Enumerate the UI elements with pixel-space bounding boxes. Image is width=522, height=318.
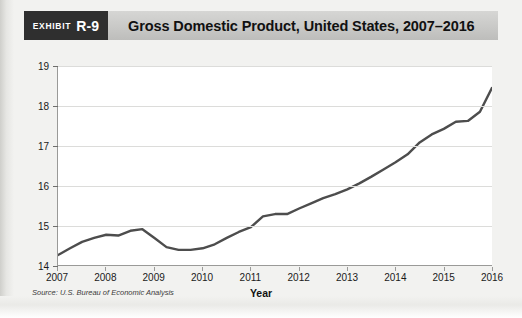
y-tick-mark-15 <box>53 226 58 227</box>
exhibit-tag-word: Exhibit <box>33 21 71 31</box>
x-tick-mark-2014 <box>395 267 396 271</box>
x-tick-mark-2008 <box>105 267 106 271</box>
x-tick-mark-2009 <box>154 267 155 271</box>
x-tick-label-2008: 2008 <box>94 272 116 283</box>
x-tick-label-2014: 2014 <box>384 272 406 283</box>
exhibit-title: Gross Domestic Product, United States, 2… <box>108 11 498 40</box>
chart-container: Trillions of Dollars 141516171819 200720… <box>24 47 498 292</box>
gridline-y-16 <box>58 186 492 187</box>
y-tick-mark-16 <box>53 186 58 187</box>
x-tick-label-2011: 2011 <box>240 272 262 283</box>
y-tick-mark-19 <box>53 66 58 67</box>
page-edge-shadow-left <box>0 0 14 318</box>
page-edge-shadow-bottom <box>0 296 522 318</box>
y-tick-label-18: 18 <box>27 101 49 112</box>
y-tick-mark-18 <box>53 106 58 107</box>
gridline-y-15 <box>58 226 492 227</box>
gridline-y-18 <box>58 106 492 107</box>
source-note: Source: U.S. Bureau of Economic Analysis <box>32 288 174 297</box>
x-tick-mark-2016 <box>492 267 493 271</box>
x-tick-label-2015: 2015 <box>433 272 455 283</box>
y-tick-label-14: 14 <box>27 261 49 272</box>
y-tick-mark-17 <box>53 146 58 147</box>
exhibit-tag: Exhibit R-9 <box>24 11 108 40</box>
x-tick-mark-2007 <box>57 267 58 271</box>
exhibit-card: Exhibit R-9 Gross Domestic Product, Unit… <box>0 0 522 318</box>
y-tick-label-19: 19 <box>27 61 49 72</box>
y-tick-label-17: 17 <box>27 141 49 152</box>
gridline-y-17 <box>58 146 492 147</box>
exhibit-header-banner: Exhibit R-9 Gross Domestic Product, Unit… <box>24 11 498 40</box>
y-tick-label-16: 16 <box>27 181 49 192</box>
gridline-y-19 <box>58 66 492 67</box>
gdp-line-series <box>58 66 492 265</box>
x-tick-label-2016: 2016 <box>481 272 503 283</box>
x-tick-label-2012: 2012 <box>288 272 310 283</box>
x-tick-label-2007: 2007 <box>46 272 68 283</box>
x-tick-label-2009: 2009 <box>143 272 165 283</box>
y-tick-label-15: 15 <box>27 221 49 232</box>
x-tick-mark-2013 <box>347 267 348 271</box>
exhibit-tag-number: R-9 <box>76 18 99 34</box>
x-tick-mark-2012 <box>299 267 300 271</box>
series-line-0 <box>58 88 492 255</box>
x-tick-mark-2011 <box>250 267 251 271</box>
x-tick-label-2010: 2010 <box>191 272 213 283</box>
x-tick-mark-2015 <box>444 267 445 271</box>
x-tick-label-2013: 2013 <box>336 272 358 283</box>
plot-area <box>57 66 492 266</box>
x-tick-mark-2010 <box>202 267 203 271</box>
